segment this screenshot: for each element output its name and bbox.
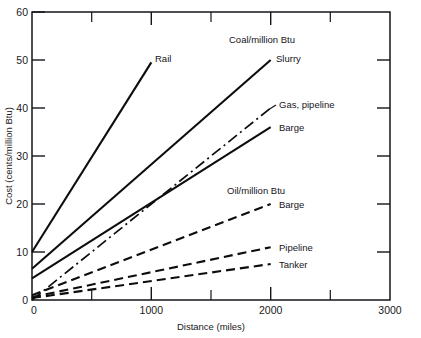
y-ticklabel-20: 20 (16, 198, 28, 210)
series-label-gas-pipeline: Gas, pipeline (279, 99, 334, 110)
y-axis-title: Cost (cents/million Btu) (3, 107, 14, 205)
x-axis-tick-labels: 0 1000 2000 3000 (31, 304, 402, 316)
cost-vs-distance-chart: 60 50 40 30 20 10 0 0 1000 2 (0, 0, 421, 338)
x-ticklabel-1000: 1000 (140, 304, 164, 316)
x-ticklabel-3000: 3000 (378, 304, 402, 316)
group-label-coal: Coal/million Btu (229, 34, 295, 45)
y-axis-ticks (32, 12, 45, 252)
x-axis-ticks-bottom (92, 287, 331, 300)
x-axis-ticks-top (92, 12, 331, 25)
y-ticklabel-50: 50 (16, 54, 28, 66)
y-axis-ticks-right (377, 60, 390, 252)
chart-figure: 60 50 40 30 20 10 0 0 1000 2 (0, 0, 421, 338)
leader-gas-pipeline (268, 105, 276, 110)
series-label-barge-coal: Barge (279, 122, 304, 133)
x-ticklabel-0: 0 (31, 304, 37, 316)
series-line-slurry (32, 60, 271, 269)
series-label-rail: Rail (155, 53, 171, 64)
y-ticklabel-40: 40 (16, 102, 28, 114)
series-line-rail (32, 62, 151, 252)
x-ticklabel-2000: 2000 (259, 304, 283, 316)
series-label-slurry: Slurry (276, 53, 301, 64)
y-ticklabel-60: 60 (16, 6, 28, 18)
series-label-barge-oil: Barge (279, 199, 304, 210)
y-ticklabel-30: 30 (16, 150, 28, 162)
x-axis-title: Distance (miles) (177, 321, 245, 332)
series-label-tanker-oil: Tanker (279, 259, 308, 270)
group-label-oil: Oil/million Btu (227, 185, 285, 196)
series-line-barge-coal (32, 127, 271, 278)
y-ticklabel-0: 0 (22, 294, 28, 306)
y-axis-tick-labels: 60 50 40 30 20 10 0 (16, 6, 28, 306)
y-ticklabel-10: 10 (16, 246, 28, 258)
series-label-pipeline-oil: Pipeline (279, 242, 313, 253)
